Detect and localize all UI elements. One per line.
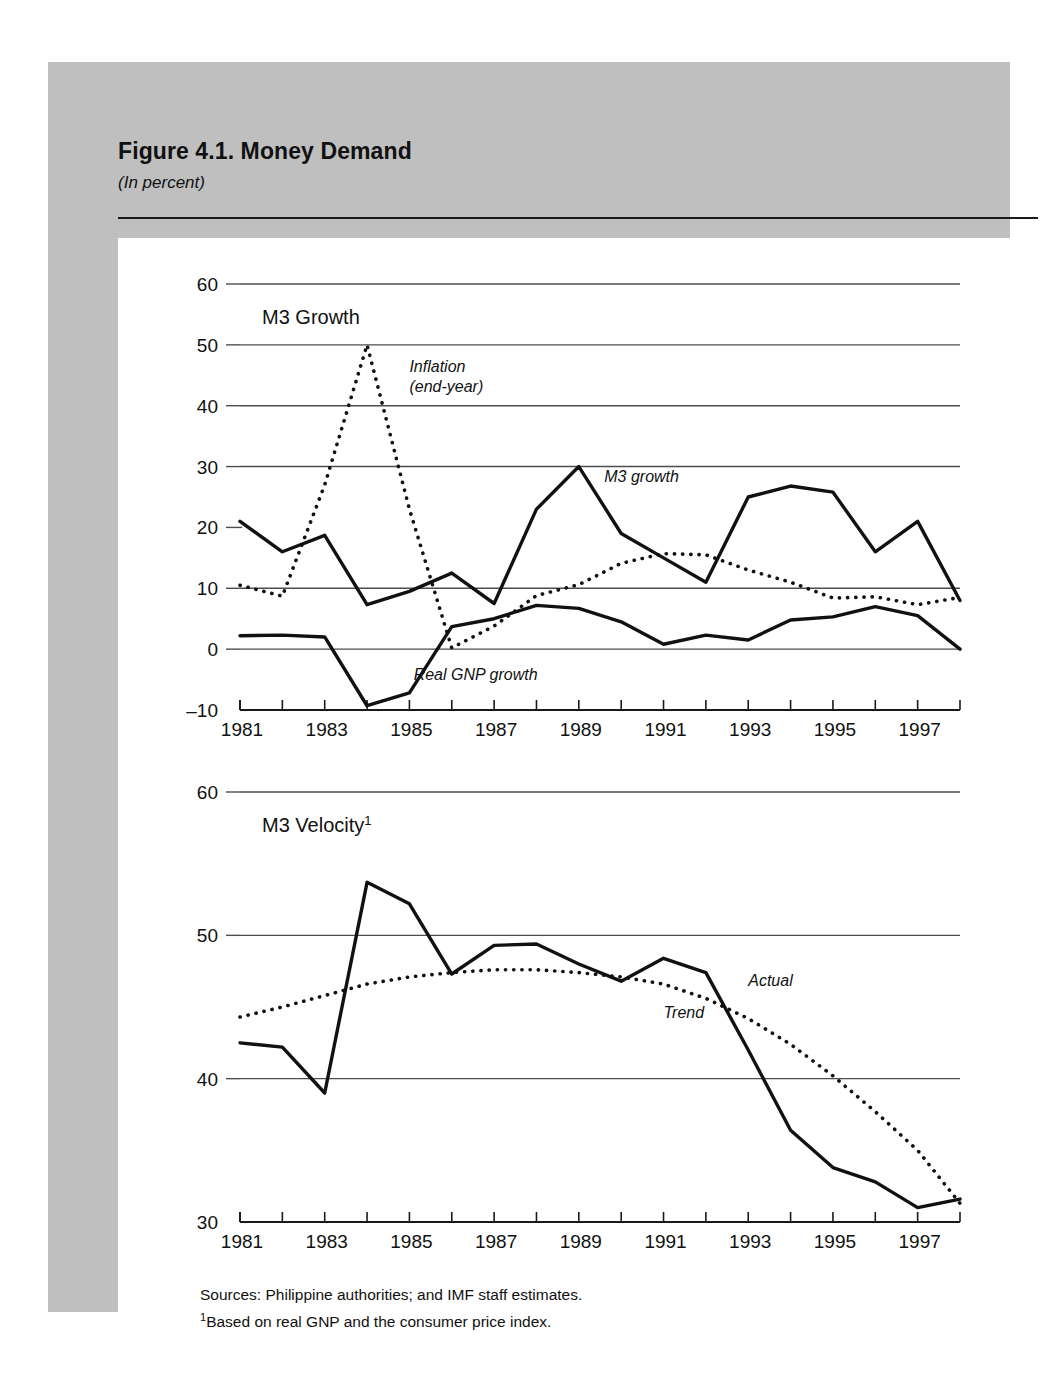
x-axis-tick-label: 1985 (390, 719, 432, 740)
x-axis-tick-label: 1995 (814, 719, 856, 740)
x-axis-tick-label: 1989 (560, 719, 602, 740)
x-axis-tick-label: 1987 (475, 719, 517, 740)
x-axis-tick-label: 1995 (814, 1231, 856, 1252)
panel-title: M3 Velocity1 (262, 813, 372, 836)
x-axis-tick-label: 1983 (306, 719, 348, 740)
series-trend (240, 970, 960, 1204)
series-m3-growth (240, 467, 960, 605)
footnote-line: 1Based on real GNP and the consumer pric… (200, 1306, 900, 1333)
x-axis-tick-label: 1989 (560, 1231, 602, 1252)
x-axis-tick-label: 1985 (390, 1231, 432, 1252)
y-axis-tick-label: 60 (197, 274, 218, 295)
footnotes: Sources: Philippine authorities; and IMF… (200, 1284, 900, 1333)
y-axis-tick-label: 50 (197, 925, 218, 946)
series-inflation-end-year (240, 345, 960, 648)
series-actual (240, 882, 960, 1207)
series-label: Inflation(end-year) (409, 358, 483, 395)
x-axis-tick-label: 1981 (221, 719, 263, 740)
x-axis-tick-label: 1997 (899, 1231, 941, 1252)
y-axis-tick-label: 20 (197, 517, 218, 538)
series-real-gnp-growth (240, 605, 960, 705)
chart-m3-growth: –100102030405060198119831985198719891991… (186, 274, 960, 740)
plot-card: –100102030405060198119831985198719891991… (118, 238, 1038, 1350)
x-axis-tick-label: 1993 (729, 719, 771, 740)
series-label: Actual (747, 972, 793, 989)
y-axis-tick-label: 50 (197, 335, 218, 356)
y-axis-tick-label: 40 (197, 1069, 218, 1090)
y-axis-tick-label: –10 (186, 700, 218, 721)
y-axis-tick-label: 60 (197, 782, 218, 803)
series-label-line: (end-year) (409, 378, 483, 395)
x-axis-tick-label: 1991 (644, 719, 686, 740)
charts-svg: –100102030405060198119831985198719891991… (118, 238, 1038, 1350)
series-label: M3 growth (604, 468, 679, 485)
x-axis-tick-label: 1983 (306, 1231, 348, 1252)
y-axis-tick-label: 10 (197, 578, 218, 599)
x-axis-tick-label: 1997 (899, 719, 941, 740)
panel-title: M3 Growth (262, 306, 360, 328)
y-axis-tick-label: 0 (207, 639, 218, 660)
panel-title-superscript: 1 (364, 813, 371, 828)
series-label-line: Inflation (409, 358, 465, 375)
series-label: Trend (664, 1004, 706, 1021)
figure-title: Figure 4.1. Money Demand (118, 136, 1038, 166)
x-axis-tick-label: 1987 (475, 1231, 517, 1252)
sources-line: Sources: Philippine authorities; and IMF… (200, 1284, 900, 1306)
header-divider (118, 217, 1038, 219)
series-label-line: Real GNP growth (414, 666, 538, 683)
figure-page: Figure 4.1. Money Demand (In percent) –1… (0, 0, 1058, 1374)
y-axis-tick-label: 30 (197, 1212, 218, 1233)
series-label-line: Trend (664, 1004, 706, 1021)
y-axis-tick-label: 40 (197, 396, 218, 417)
figure-subtitle: (In percent) (118, 172, 1038, 193)
series-label: Real GNP growth (414, 666, 538, 683)
y-axis-tick-label: 30 (197, 457, 218, 478)
figure-frame: Figure 4.1. Money Demand (In percent) –1… (48, 62, 1010, 1312)
chart-m3-velocity: 3040506019811983198519871989199119931995… (197, 782, 960, 1252)
x-axis-tick-label: 1993 (729, 1231, 771, 1252)
x-axis-tick-label: 1981 (221, 1231, 263, 1252)
footnote-text: Based on real GNP and the consumer price… (206, 1313, 551, 1330)
series-label-line: Actual (747, 972, 793, 989)
series-label-line: M3 growth (604, 468, 679, 485)
figure-header: Figure 4.1. Money Demand (In percent) (118, 136, 1038, 193)
x-axis-tick-label: 1991 (644, 1231, 686, 1252)
